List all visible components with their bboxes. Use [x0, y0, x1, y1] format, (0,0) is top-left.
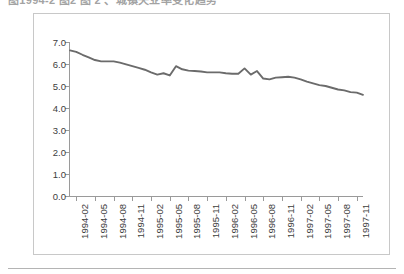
x-axis-tick-label: 1995-05: [174, 204, 184, 239]
line-series-rate: [70, 42, 363, 196]
x-axis-tick-label: 1994-02: [80, 204, 90, 239]
y-axis-tick-label: 6.0: [53, 60, 66, 70]
y-axis-tick-label: 2.0: [53, 148, 66, 158]
y-axis-tick-label: 4.0: [53, 104, 66, 114]
x-axis-tick: [338, 197, 339, 201]
x-axis-tick-label: 1995-08: [192, 204, 202, 239]
x-axis-tick-label: 1996-11: [286, 204, 296, 238]
x-axis-tick: [188, 197, 189, 201]
x-axis-tick: [301, 197, 302, 201]
x-axis-tick: [226, 197, 227, 201]
x-axis-tick-label: 1997-02: [305, 204, 315, 239]
x-axis-tick: [245, 197, 246, 201]
x-axis-tick: [132, 197, 133, 201]
x-axis-tick: [282, 197, 283, 201]
x-axis-tick-label: 1994-05: [99, 204, 109, 239]
x-axis-tick: [95, 197, 96, 201]
x-axis-tick-label: 1996-02: [230, 204, 240, 239]
x-axis-tick-label: 1997-05: [323, 204, 333, 239]
x-axis-tick: [170, 197, 171, 201]
x-axis-tick: [319, 197, 320, 201]
x-axis-tick-label: 1996-08: [267, 204, 277, 239]
y-axis-tick-label: 7.0: [53, 38, 66, 48]
x-axis-tick-label: 1994-11: [136, 204, 146, 238]
bottom-divider: [8, 268, 396, 269]
x-axis-tick: [263, 197, 264, 201]
x-axis-tick-label: 1997-11: [361, 204, 371, 238]
y-axis-tick-label: 1.0: [53, 170, 66, 180]
cut-off-header-strip: 图1994-2 图2 图 2 、城镇失业率变化趋势: [0, 0, 404, 11]
x-axis-tick-label: 1995-02: [155, 204, 165, 239]
x-axis-tick: [151, 197, 152, 201]
y-axis-tick-label: 3.0: [53, 126, 66, 136]
x-axis-tick: [207, 197, 208, 201]
plot-area: 0.01.02.03.04.05.06.07.0 1994-021994-051…: [70, 42, 363, 196]
cut-off-caption: 图1994-2 图2 图 2 、城镇失业率变化趋势: [8, 0, 217, 7]
figure-frame: 0.01.02.03.04.05.06.07.0 1994-021994-051…: [33, 13, 390, 255]
x-axis-tick-label: 1995-11: [211, 204, 221, 238]
y-axis-tick-label: 5.0: [53, 82, 66, 92]
x-axis-tick: [357, 197, 358, 201]
x-axis-tick-label: 1994-08: [118, 204, 128, 239]
y-axis-tick-label: 0.0: [53, 192, 66, 202]
x-axis-tick-label: 1996-05: [249, 204, 259, 239]
x-axis-tick-label: 1997-08: [342, 204, 352, 239]
x-axis-tick: [76, 197, 77, 201]
y-axis-tick-label-wrap: 0.0: [70, 196, 71, 197]
x-axis-tick: [114, 197, 115, 201]
